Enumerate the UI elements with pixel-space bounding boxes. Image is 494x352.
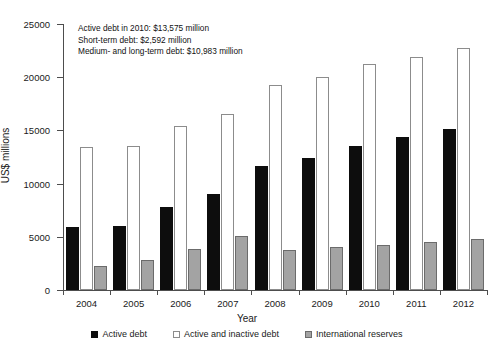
bar-2009-series-2 bbox=[316, 77, 329, 290]
bar-2009-series-1 bbox=[302, 158, 315, 290]
legend-swatch-icon-active-and-inactive-debt bbox=[173, 331, 180, 338]
bar-2011-series-1 bbox=[396, 137, 409, 290]
bar-2011-series-3 bbox=[424, 242, 437, 290]
x-axis-tick bbox=[440, 290, 441, 295]
bar-2007-series-1 bbox=[207, 194, 220, 290]
y-axis-tick-label: 5000 bbox=[0, 231, 54, 242]
bar-2011-series-2 bbox=[410, 57, 423, 290]
legend-label-active-and-inactive-debt: Active and inactive debt bbox=[184, 329, 279, 339]
x-axis-tick-label-2006: 2006 bbox=[170, 298, 191, 309]
x-axis-tick-label-2010: 2010 bbox=[359, 298, 380, 309]
bar-2009-series-3 bbox=[330, 247, 343, 290]
legend-item-international-reserves: International reserves bbox=[305, 329, 403, 339]
bar-2010-series-1 bbox=[349, 146, 362, 290]
bar-2006-series-2 bbox=[174, 126, 187, 290]
x-axis-tick bbox=[487, 290, 488, 295]
x-axis-tick bbox=[110, 290, 111, 295]
x-axis-tick-label-2005: 2005 bbox=[123, 298, 144, 309]
bar-2008-series-3 bbox=[283, 250, 296, 290]
legend-swatch-icon-international-reserves bbox=[305, 331, 312, 338]
x-axis-tick bbox=[299, 290, 300, 295]
x-axis-tick bbox=[393, 290, 394, 295]
y-axis-tick-label: 25000 bbox=[0, 19, 54, 30]
x-axis-tick-label-2011: 2011 bbox=[406, 298, 426, 309]
bar-2007-series-2 bbox=[221, 114, 234, 290]
y-axis-tick-label-wrap: 15000 bbox=[0, 130, 54, 141]
bar-2004-series-3 bbox=[94, 266, 107, 290]
legend-swatch-icon-active-debt bbox=[91, 331, 98, 338]
legend-label-active-debt: Active debt bbox=[102, 329, 147, 339]
y-axis-tick-label: 10000 bbox=[0, 178, 54, 189]
bar-2005-series-1 bbox=[113, 226, 126, 290]
y-axis-tick-label: 0 bbox=[0, 285, 54, 296]
chart-annotation: Active debt in 2010: $13,575 million Sho… bbox=[78, 23, 243, 58]
bar-2006-series-1 bbox=[160, 207, 173, 290]
bar-2008-series-1 bbox=[255, 166, 268, 290]
x-axis-tick bbox=[63, 290, 64, 295]
legend-item-active-debt: Active debt bbox=[91, 329, 147, 339]
bar-2010-series-3 bbox=[377, 245, 390, 290]
x-axis-tick-label-2008: 2008 bbox=[264, 298, 285, 309]
x-axis-tick-label-2009: 2009 bbox=[312, 298, 333, 309]
bar-chart: US$ millions Year 0500010000150002000025… bbox=[0, 0, 494, 352]
bar-2012-series-3 bbox=[471, 239, 484, 290]
annotation-line-3: Medium- and long-term debt: $10,983 mill… bbox=[78, 46, 243, 58]
bar-2007-series-3 bbox=[235, 236, 248, 290]
annotation-line-1: Active debt in 2010: $13,575 million bbox=[78, 23, 243, 35]
annotation-line-2: Short-term debt: $2,592 million bbox=[78, 35, 243, 47]
y-axis-tick-label-wrap: 25000 bbox=[0, 24, 54, 35]
bar-2004-series-1 bbox=[66, 227, 79, 290]
bar-2008-series-2 bbox=[269, 85, 282, 290]
y-axis-tick-label: 15000 bbox=[0, 125, 54, 136]
bar-2004-series-2 bbox=[80, 147, 93, 290]
legend-label-international-reserves: International reserves bbox=[316, 329, 403, 339]
x-axis-tick-label-2012: 2012 bbox=[453, 298, 474, 309]
bar-2012-series-1 bbox=[443, 129, 456, 290]
x-axis-tick bbox=[204, 290, 205, 295]
y-axis-tick-label-wrap: 10000 bbox=[0, 184, 54, 195]
x-axis-title: Year bbox=[0, 313, 494, 324]
x-axis-tick-label-2007: 2007 bbox=[217, 298, 238, 309]
chart-legend: Active debt Active and inactive debt Int… bbox=[0, 329, 494, 339]
legend-item-active-and-inactive-debt: Active and inactive debt bbox=[173, 329, 279, 339]
bar-2010-series-2 bbox=[363, 64, 376, 290]
x-axis-line bbox=[63, 290, 488, 291]
bar-2005-series-3 bbox=[141, 260, 154, 290]
x-axis-tick bbox=[346, 290, 347, 295]
bar-2012-series-2 bbox=[457, 48, 470, 290]
y-axis-tick-label-wrap: 5000 bbox=[0, 237, 54, 248]
y-axis-tick-label-wrap: 20000 bbox=[0, 77, 54, 88]
x-axis-tick bbox=[251, 290, 252, 295]
y-axis-tick-label: 20000 bbox=[0, 72, 54, 83]
y-axis-tick-label-wrap: 0 bbox=[0, 290, 54, 301]
plot-area bbox=[63, 24, 487, 290]
bar-2005-series-2 bbox=[127, 146, 140, 290]
bar-2006-series-3 bbox=[188, 249, 201, 290]
x-axis-tick bbox=[157, 290, 158, 295]
x-axis-tick-label-2004: 2004 bbox=[76, 298, 97, 309]
